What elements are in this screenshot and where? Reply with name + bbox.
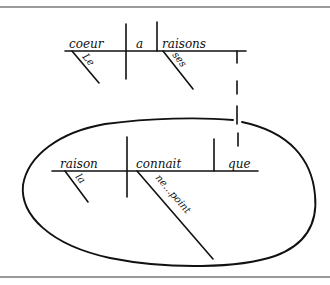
main-subject-word: coeur <box>69 37 105 51</box>
sentence-diagram: coeur a raisons Le ses raison connait qu… <box>0 0 330 285</box>
main-object-word: raisons <box>162 37 206 51</box>
clause-connector <box>237 51 238 146</box>
main-verb-word: a <box>136 37 143 51</box>
subordinate-clause: raison connait que la ne...point <box>52 137 258 259</box>
sub-object-word: que <box>228 157 251 171</box>
sub-verb-modifier-word: ne...point <box>153 172 193 216</box>
main-subject-modifier-word: Le <box>80 50 97 68</box>
sub-verb-modifier-slant <box>137 171 213 259</box>
sub-verb-word: connait <box>136 157 181 171</box>
main-object-modifier-word: ses <box>170 49 189 69</box>
sub-subject-word: raison <box>60 157 98 171</box>
sub-subject-modifier-word: la <box>73 171 87 185</box>
main-clause: coeur a raisons Le ses <box>65 22 246 89</box>
